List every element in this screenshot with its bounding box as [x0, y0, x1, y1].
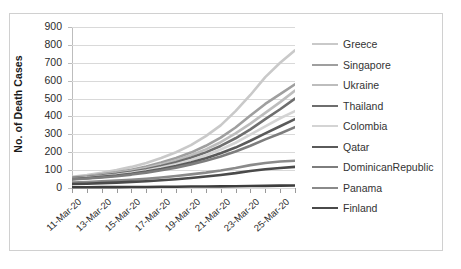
legend-swatch-icon: [312, 166, 338, 168]
legend-label: Panama: [343, 182, 382, 194]
legend-label: Greece: [343, 38, 377, 50]
x-axis-tick: [87, 189, 88, 193]
y-axis-tick: [68, 63, 72, 64]
x-axis-tick: [102, 189, 103, 193]
x-axis-tick: [176, 189, 177, 193]
legend-item[interactable]: Ukraine: [312, 75, 452, 96]
x-axis-tick: [131, 189, 132, 193]
y-axis-tick: [68, 170, 72, 171]
legend-item[interactable]: Qatar: [312, 137, 452, 158]
series-lines: [72, 27, 295, 189]
x-axis-tick: [280, 189, 281, 193]
y-axis-tick: [68, 99, 72, 100]
y-axis-label: 400: [28, 110, 62, 120]
legend-swatch-icon: [312, 43, 338, 45]
y-axis-tick: [68, 45, 72, 46]
y-axis-tick: [68, 27, 72, 28]
legend-swatch-icon: [312, 84, 338, 86]
legend-item[interactable]: Singapore: [312, 55, 452, 76]
y-axis-label: 300: [28, 128, 62, 138]
legend-label: DominicanRepublic: [343, 161, 433, 173]
legend-label: Colombia: [343, 120, 387, 132]
y-axis-label: 200: [28, 146, 62, 156]
y-axis-label: 800: [28, 39, 62, 49]
y-axis-label: 900: [28, 21, 62, 31]
legend-item[interactable]: Thailand: [312, 96, 452, 117]
legend-item[interactable]: DominicanRepublic: [312, 157, 452, 178]
x-axis-tick: [265, 189, 266, 193]
legend-item[interactable]: Panama: [312, 178, 452, 199]
legend-swatch-icon: [312, 146, 338, 148]
legend-label: Singapore: [343, 59, 391, 71]
legend-swatch-icon: [312, 125, 338, 127]
y-axis-tick: [68, 81, 72, 82]
y-axis-tick: [68, 134, 72, 135]
y-axis-label: 600: [28, 75, 62, 85]
y-axis-label: 0: [28, 182, 62, 192]
y-axis-label: 500: [28, 93, 62, 103]
x-axis-tick: [221, 189, 222, 193]
x-axis-tick: [117, 189, 118, 193]
legend-label: Finland: [343, 202, 377, 214]
y-axis-label: 100: [28, 164, 62, 174]
legend-label: Qatar: [343, 141, 369, 153]
x-axis-tick: [236, 189, 237, 193]
legend-label: Ukraine: [343, 79, 379, 91]
y-axis-tick: [68, 152, 72, 153]
legend-swatch-icon: [312, 64, 338, 66]
y-axis-title: No. of Death Cases: [12, 45, 24, 163]
y-axis-label: 700: [28, 57, 62, 67]
y-axis-tick: [68, 116, 72, 117]
x-axis-tick: [72, 189, 73, 193]
line-chart: No. of Death Cases GreeceSingaporeUkrain…: [0, 0, 461, 269]
legend-swatch-icon: [312, 187, 338, 189]
x-axis-tick: [295, 189, 296, 193]
x-axis-tick: [206, 189, 207, 193]
x-axis-tick: [161, 189, 162, 193]
legend-item[interactable]: Finland: [312, 198, 452, 219]
chart-legend: GreeceSingaporeUkraineThailandColombiaQa…: [312, 34, 452, 219]
legend-item[interactable]: Colombia: [312, 116, 452, 137]
legend-label: Thailand: [343, 100, 383, 112]
x-axis-tick: [250, 189, 251, 193]
legend-swatch-icon: [312, 207, 338, 209]
x-axis-tick: [191, 189, 192, 193]
legend-item[interactable]: Greece: [312, 34, 452, 55]
series-line: [72, 185, 295, 187]
x-axis-tick: [146, 189, 147, 193]
legend-swatch-icon: [312, 105, 338, 107]
